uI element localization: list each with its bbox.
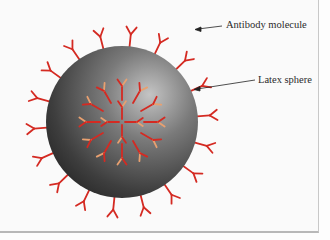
antibody-segment xyxy=(33,157,42,159)
antibody-segment xyxy=(29,98,38,101)
antibody-segment xyxy=(159,34,160,43)
antibody-segment xyxy=(126,27,130,35)
antibody-segment xyxy=(210,115,218,120)
antibody-molecule-label: Antibody molecule xyxy=(226,19,307,30)
antibody-segment xyxy=(153,139,161,140)
antibody-segment xyxy=(131,28,137,35)
antibody-segment xyxy=(139,153,140,161)
antibody-segment xyxy=(104,153,105,161)
antibody-segment xyxy=(57,183,59,192)
antibody-segment xyxy=(202,78,207,86)
antibody-segment xyxy=(37,158,42,166)
antibody-segment xyxy=(113,210,117,218)
antibody-segment xyxy=(107,210,113,217)
antibody-segment xyxy=(153,104,161,105)
antibody-segment xyxy=(83,139,91,140)
antibody-segment xyxy=(141,207,144,215)
latex-sphere-label: Latex sphere xyxy=(258,74,312,85)
antibody-segment xyxy=(104,83,105,91)
antibody-segment xyxy=(139,83,140,91)
antibody-segment xyxy=(50,183,59,185)
antibody-segment xyxy=(27,129,34,135)
antibody-segment xyxy=(76,201,84,205)
antibody-segment xyxy=(172,195,180,198)
antibody-segment xyxy=(185,59,194,61)
antibody-segment xyxy=(210,110,217,116)
antibody-segment xyxy=(48,62,51,70)
antibody-segment xyxy=(94,31,101,37)
antibody-segment xyxy=(193,173,196,181)
antibody-segment xyxy=(144,207,151,213)
antibody-segment xyxy=(26,124,34,129)
antibody-segment xyxy=(64,46,72,49)
antibody-segment xyxy=(185,52,187,61)
antibody-segment xyxy=(160,38,168,42)
antibody-segment xyxy=(32,91,38,98)
antibody-segment xyxy=(100,28,103,36)
antibody-segment xyxy=(207,143,216,146)
latex-agglutination-diagram xyxy=(0,0,330,240)
antibody-segment xyxy=(83,104,91,105)
antibody-segment xyxy=(84,201,85,210)
latex-sphere xyxy=(46,46,198,198)
antibody-segment xyxy=(207,146,213,153)
antibody-pointer-arrow xyxy=(195,26,222,32)
